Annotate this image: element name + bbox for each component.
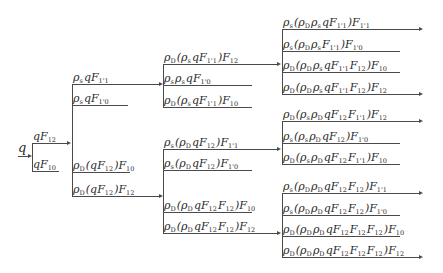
node-label-n2d: ρD (qF12 )F12 <box>72 183 136 197</box>
node-label-n1a: qF12 <box>33 130 57 144</box>
node-label-n3f: ρD (ρD qF12 F12 )F10 <box>163 199 256 213</box>
node-label-n4h: ρs (ρD ρD qF12 F12 )F1'1 <box>282 180 388 194</box>
node-label-n3a: ρD (ρs qF1'1 )F12 <box>163 51 239 65</box>
node-label-n1b: qF10 <box>33 158 57 172</box>
arrow-right-icon <box>277 147 281 151</box>
arrow-right-icon <box>159 194 163 198</box>
tree-labels: q qF12 qF10 ρs qF1'1 ρs qF1'0 ρD (qF12 )… <box>18 16 405 258</box>
node-label-n4d: ρD (ρD ρs qF1'1 F12 )F12 <box>282 81 388 95</box>
arrow-right-icon <box>419 27 423 31</box>
node-label-n3d: ρs (ρD qF12 )F1'1 <box>163 136 239 150</box>
node-label-n4i: ρs (ρD ρD qF12 F12 )F1'0 <box>282 202 388 216</box>
node-label-n4b: ρs (ρD ρs F1'1 )F1'0 <box>282 38 364 52</box>
node-label-n3c: ρD (ρs qF1'1 )F10 <box>163 94 239 108</box>
arrow-right-icon <box>67 141 71 145</box>
arrow-right-icon <box>419 92 423 96</box>
node-label-n3e: ρs (ρD qF12 )F1'0 <box>163 157 239 171</box>
node-label-n3b: ρs ρs qF1'0 <box>163 72 212 86</box>
node-label-n4e: ρD (ρs ρD qF12 F1'1 )F12 <box>282 108 388 122</box>
node-label-n2c: ρD (qF12 )F10 <box>72 159 136 173</box>
arrow-right-icon <box>419 191 423 195</box>
node-label-n4c: ρD (ρD ρs qF1'1 F12 )F10 <box>282 59 388 73</box>
probability-tree-diagram: q qF12 qF10 ρs qF1'1 ρs qF1'0 ρD (qF12 )… <box>0 0 443 273</box>
root-label: q <box>18 140 26 155</box>
arrow-right-icon <box>277 231 281 235</box>
node-label-n4k: ρD (ρD ρD qF12 F12 F12 )F12 <box>282 244 405 258</box>
arrow-right-icon <box>159 82 163 86</box>
arrow-right-icon <box>419 255 423 259</box>
node-label-n2b: ρs qF1'0 <box>72 92 110 106</box>
node-label-n4a: ρs (ρD ρs qF1'1 )F1'1 <box>282 16 371 30</box>
node-label-n3g: ρD (ρD qF12 F12 )F12 <box>163 220 256 234</box>
node-label-n4g: ρD (ρs ρD qF12 F1'1 )F10 <box>282 151 388 165</box>
root-arrowhead-icon <box>28 154 32 158</box>
node-label-n4f: ρs (ρs ρD qF12 )F1'0 <box>282 130 369 144</box>
node-label-n2a: ρs qF1'1 <box>72 71 110 85</box>
arrow-right-icon <box>277 62 281 66</box>
arrow-right-icon <box>419 119 423 123</box>
node-label-n4j: ρD (ρD ρD qF12 F12 F12 )F10 <box>282 223 405 237</box>
